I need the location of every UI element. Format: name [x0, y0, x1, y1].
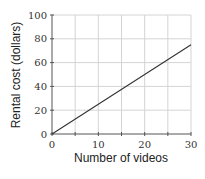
- chart: 0102030020406080100 Number of videos Ren…: [0, 0, 205, 179]
- x-tick-label: 20: [138, 139, 151, 150]
- axes: [50, 15, 191, 136]
- y-tick-label: 60: [34, 57, 47, 68]
- grid-lines: [52, 15, 191, 134]
- x-tick-label: 30: [185, 139, 198, 150]
- y-tick-label: 20: [34, 105, 47, 116]
- x-axis-label: Number of videos: [74, 151, 168, 165]
- y-tick-label: 40: [34, 81, 47, 92]
- tick-labels: 0102030020406080100: [28, 10, 197, 151]
- y-tick-label: 80: [34, 33, 47, 44]
- x-tick-label: 10: [92, 139, 105, 150]
- y-tick-label: 0: [41, 129, 47, 140]
- y-tick-label: 100: [28, 10, 47, 21]
- y-axis-label: Rental cost (dollars): [9, 22, 23, 129]
- x-tick-label: 0: [49, 139, 55, 150]
